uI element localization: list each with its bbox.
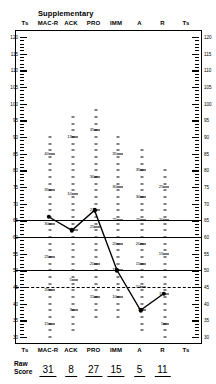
axis-label-right-95: 95 [204, 118, 209, 123]
column-header-ack-2: ACK [64, 20, 77, 26]
axis-label-right-65: 65 [204, 218, 209, 223]
column-footer-ack-2: ACK [64, 347, 77, 353]
axis-label-right-100: 100 [204, 101, 212, 106]
axis-label-right-80: 80 [204, 168, 209, 173]
column-header-mac-r-1: MAC-R [38, 20, 59, 26]
column-header-ts-7: Ts [183, 20, 190, 26]
column-header-ts-0: Ts [22, 20, 29, 26]
profile-polyline [49, 210, 164, 310]
column-footer-row: TsMAC-RACKPROIMMARTs [0, 347, 216, 356]
axis-label-right-40: 40 [204, 301, 209, 306]
axis-label-right-105: 105 [204, 85, 212, 90]
axis-label-right-75: 75 [204, 185, 209, 190]
column-header-imm-4: IMM [110, 20, 122, 26]
raw-score-value-a: 5 [134, 364, 146, 377]
axis-label-right-30: 30 [204, 335, 209, 340]
raw-score-value-ack: 8 [65, 364, 77, 377]
column-footer-imm-4: IMM [110, 347, 122, 353]
raw-score-label: Raw Score [14, 360, 32, 375]
supplementary-title: Supplementary [38, 9, 93, 18]
column-header-pro-3: PRO [87, 20, 100, 26]
axis-label-right-120: 120 [204, 35, 212, 40]
axis-label-right-35: 35 [204, 318, 209, 323]
raw-score-value-r: 11 [154, 364, 170, 377]
column-footer-ts-7: Ts [183, 347, 190, 353]
raw-score-value-pro: 27 [85, 364, 102, 377]
axis-label-right-110: 110 [204, 68, 211, 73]
mmpi-supplementary-profile: Supplementary TsMAC-RACKPROIMMARTs 12012… [0, 0, 216, 384]
column-footer-a-5: A [137, 347, 141, 353]
column-header-r-6: R [160, 20, 164, 26]
axis-label-right-90: 90 [204, 135, 209, 140]
axis-label-right-55: 55 [204, 251, 209, 256]
profile-line [16, 31, 203, 345]
column-footer-mac-r-1: MAC-R [38, 347, 59, 353]
profile-plot-area: 1201201151151101101051051001009595909085… [15, 30, 202, 344]
column-footer-r-6: R [160, 347, 164, 353]
axis-label-right-70: 70 [204, 201, 209, 206]
axis-label-right-85: 85 [204, 151, 209, 156]
column-footer-pro-3: PRO [87, 347, 100, 353]
raw-score-label-line2: Score [14, 368, 32, 376]
axis-label-right-45: 45 [204, 285, 209, 290]
raw-score-label-line1: Raw [14, 360, 32, 368]
axis-label-right-60: 60 [204, 235, 209, 240]
column-footer-ts-0: Ts [22, 347, 29, 353]
column-header-a-5: A [137, 20, 141, 26]
column-header-row: TsMAC-RACKPROIMMARTs [0, 20, 216, 29]
axis-label-right-115: 115 [204, 51, 211, 56]
axis-label-right-50: 50 [204, 268, 209, 273]
raw-score-value-mac-r: 31 [39, 364, 56, 377]
raw-score-value-imm: 15 [107, 364, 124, 377]
